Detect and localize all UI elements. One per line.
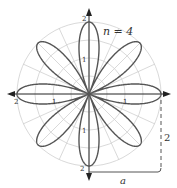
tick-label: 2 [82, 15, 86, 23]
tick-label: 1 [123, 98, 127, 106]
arrow-left-icon [7, 91, 15, 97]
tick-label: 1 [52, 98, 56, 106]
tick-label: 2 [14, 98, 18, 106]
a-label: a [120, 175, 126, 186]
arrow-right-icon [163, 91, 171, 97]
tick-label: 1 [82, 127, 86, 135]
tick-label: 1 [82, 56, 86, 64]
rose-curve-figure: n = 4 a 2 1 1 2 2 2 1 1 [0, 0, 177, 188]
arrow-down-icon [86, 173, 92, 181]
tick-label: 2 [80, 165, 84, 173]
two-label: 2 [164, 132, 170, 143]
arrow-up-icon [86, 8, 92, 16]
n-label: n = 4 [103, 25, 133, 38]
